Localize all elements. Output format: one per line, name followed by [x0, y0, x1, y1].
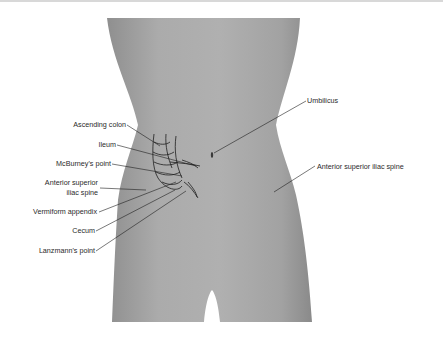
- label-ileum: Ileum: [24, 140, 116, 149]
- torso-silhouette: [107, 18, 312, 322]
- label-mcburneys-point: McBurney's point: [10, 159, 111, 168]
- label-vermiform-appendix: Vermiform appendix: [4, 207, 97, 216]
- label-asis-right-line1: Anterior superior: [10, 178, 98, 187]
- label-cecum: Cecum: [4, 226, 95, 235]
- label-umbilicus: Umbilicus: [307, 96, 338, 105]
- label-lanzmanns-point: Lanzmann's point: [4, 246, 95, 255]
- umbilicus-mark: [211, 152, 213, 158]
- label-asis-left: Anterior superior iliac spine: [317, 162, 404, 171]
- label-asis-right-line2: iliac spine: [10, 188, 98, 197]
- label-ascending-colon: Ascending colon: [24, 120, 126, 129]
